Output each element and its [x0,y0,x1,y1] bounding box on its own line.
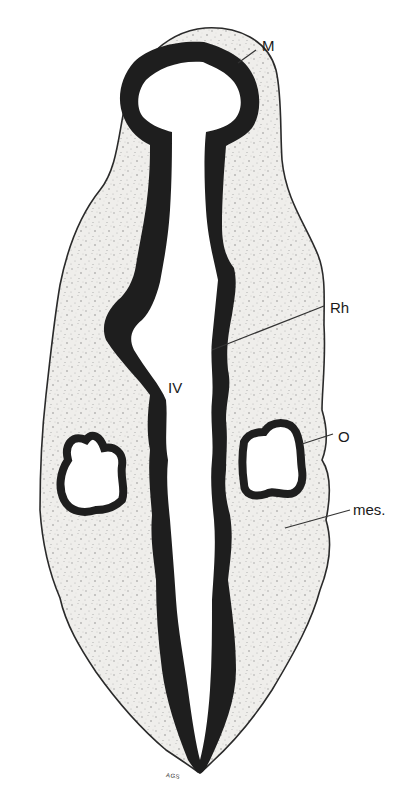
embryo-section-diagram [0,0,414,805]
otic-vesicle-left [61,436,124,512]
label-mesencephalon: M [262,38,275,53]
otic-vesicle-right [243,423,303,496]
label-otic-vesicle: O [338,429,350,444]
label-fourth-ventricle: IV [168,380,182,395]
label-mesenchyme: mes. [353,502,386,517]
label-rhombencephalon: Rh [330,300,349,315]
